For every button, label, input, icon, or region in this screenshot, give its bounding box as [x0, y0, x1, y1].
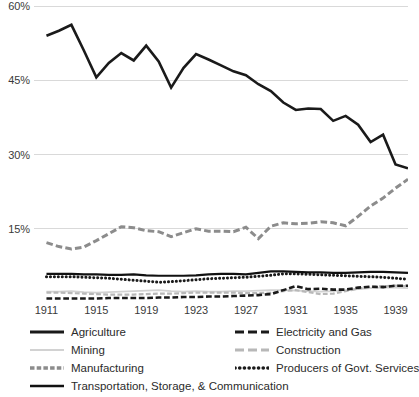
y-axis-tick-label: 60%	[0, 1, 30, 12]
y-axis-tick-label: 45%	[0, 75, 30, 86]
x-axis-tick-label: 1939	[376, 304, 416, 317]
x-axis-tick-label: 1927	[226, 304, 266, 317]
x-axis-tick-label: 1923	[176, 304, 216, 317]
legend-item-label: Agriculture	[71, 326, 126, 338]
legend-item[interactable]: Construction	[235, 342, 341, 358]
series-line	[46, 286, 408, 295]
x-axis-tick-label: 1919	[126, 304, 166, 317]
legend-swatch-icon	[30, 380, 64, 392]
plot-area	[34, 6, 408, 303]
legend-item-label: Manufacturing	[71, 362, 144, 374]
x-axis-tick-label: 1911	[26, 304, 66, 317]
legend-swatch-icon	[235, 362, 269, 374]
legend-item[interactable]: Agriculture	[30, 324, 126, 340]
legend-swatch-icon	[235, 326, 269, 338]
legend-swatch-icon	[235, 344, 269, 356]
y-axis-tick-label: 30%	[0, 149, 30, 160]
y-axis: 60%45%30%15%	[0, 6, 30, 303]
x-axis-tick-label: 1915	[76, 304, 116, 317]
y-axis-tick-label: 15%	[0, 223, 30, 234]
legend-item[interactable]: Manufacturing	[30, 360, 144, 376]
legend-item[interactable]: Transportation, Storage, & Communication	[30, 378, 289, 394]
legend-swatch-icon	[30, 344, 64, 356]
legend-item[interactable]: Electricity and Gas	[235, 324, 372, 340]
x-axis-tick-label: 1935	[326, 304, 366, 317]
x-axis: 19111915191919231927193119351939	[34, 304, 408, 320]
legend-item-label: Construction	[276, 344, 341, 356]
legend-item[interactable]: Mining	[30, 342, 105, 358]
gridlines	[34, 6, 408, 229]
legend-item-label: Mining	[71, 344, 105, 356]
line-chart-svg	[34, 6, 408, 303]
x-axis-tick-label: 1931	[276, 304, 316, 317]
legend-item-label: Electricity and Gas	[276, 326, 372, 338]
legend-item[interactable]: Producers of Govt. Services	[235, 360, 419, 376]
legend-item-label: Producers of Govt. Services	[276, 362, 419, 374]
legend-swatch-icon	[30, 362, 64, 374]
series-line	[46, 179, 408, 249]
legend-item-label: Transportation, Storage, & Communication	[71, 380, 289, 392]
chart-legend: AgricultureElectricity and GasMiningCons…	[0, 324, 417, 394]
series-lines	[46, 25, 408, 299]
series-line	[46, 25, 408, 169]
legend-swatch-icon	[30, 326, 64, 338]
